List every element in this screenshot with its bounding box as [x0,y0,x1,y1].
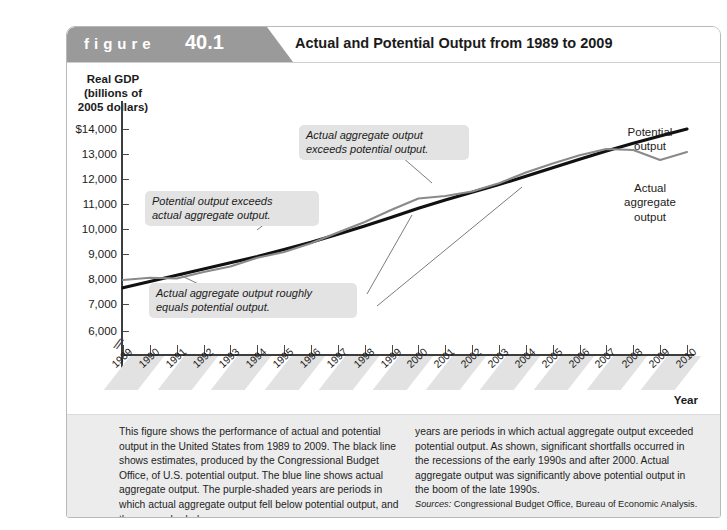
y-axis-title-line-1: Real GDP [67,73,159,85]
y-tick-label-9000: 9,000 [66,248,117,260]
y-tick-mark [122,154,129,155]
y-tick-mark [122,279,129,280]
figure-card: figure 40.1 Actual and Potential Output … [66,26,721,518]
y-tick-label-7000: 7,000 [66,298,117,310]
sources-label: Sources: [415,499,451,509]
y-tick-label-10000: 10,000 [66,223,117,235]
y-tick-label-6000: 6,000 [66,325,117,337]
y-tick-mark [122,229,129,230]
caption-column-right: years are periods in which actual aggreg… [415,425,701,498]
y-axis-title-line-3: 2005 dollars) [67,101,159,113]
y-tick-mark [122,129,129,130]
figure-number-label: 40.1 [185,31,224,54]
series-label-potential-output: Potential output [607,125,693,154]
figure-caption: This figure shows the performance of act… [67,414,720,517]
caption-sources: Sources: Congressional Budget Office, Bu… [415,499,715,509]
y-tick-label-13000: 13,000 [66,148,117,160]
y-tick-mark [122,304,129,305]
y-tick-mark [122,254,129,255]
y-tick-mark [122,331,129,332]
leader-line-actual-exceeds [402,157,432,183]
figure-word-label: figure [84,35,156,52]
figure-header: figure 40.1 Actual and Potential Output … [67,27,720,62]
chart-plot-area: Real GDP (billions of 2005 dollars) $14,… [67,63,720,416]
y-tick-label-11000: 11,000 [66,198,117,210]
callout-roughly-equals: Actual aggregate output roughly equals p… [149,283,357,318]
y-tick-mark [122,179,129,180]
series-label-actual-output: Actual aggregate output [607,181,693,224]
callout-actual-exceeds: Actual aggregate output exceeds potentia… [299,125,469,160]
y-tick-mark [122,204,129,205]
callout-potential-exceeds: Potential output exceeds actual aggregat… [145,191,319,226]
leader-line-roughly-equals-b [367,215,412,294]
caption-column-left: This figure shows the performance of act… [119,425,405,518]
sources-text: Congressional Budget Office, Bureau of E… [451,499,697,509]
x-axis-title: Year [674,394,698,406]
y-tick-label-12000: 12,000 [66,173,117,185]
y-tick-label-8000: 8,000 [66,273,117,285]
y-tick-label-14000: $14,000 [66,123,117,135]
leader-line-roughly-equals-c [377,187,522,306]
y-axis-title-line-2: (billions of [67,87,159,99]
figure-title: Actual and Potential Output from 1989 to… [295,35,612,51]
